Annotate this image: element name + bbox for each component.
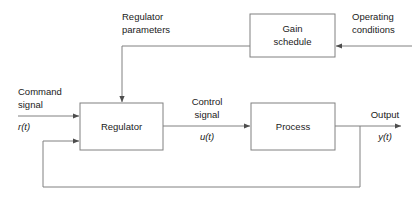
label-regulator-parameters-line2: parameters <box>122 24 170 35</box>
block-regulator-label: Regulator <box>101 121 142 132</box>
label-output-line1: Output <box>371 109 400 120</box>
block-diagram-svg: Regulator Process Gain schedule Regulato… <box>0 0 416 211</box>
label-output-variable: y(t) <box>377 131 392 142</box>
label-operating-conditions-line1: Operating <box>352 11 394 22</box>
block-diagram-canvas: Regulator Process Gain schedule Regulato… <box>0 0 416 211</box>
label-command-signal-variable: r(t) <box>18 121 30 132</box>
label-command-signal-line2: signal <box>18 99 43 110</box>
block-gain-schedule-label-line1: Gain <box>282 23 302 34</box>
block-gain-schedule-label-line2: schedule <box>273 36 311 47</box>
label-control-signal-line2: signal <box>195 109 220 120</box>
label-control-signal-line1: Control <box>192 96 223 107</box>
wire-gain-schedule-to-regulator <box>122 46 250 102</box>
label-command-signal-line1: Command <box>18 86 62 97</box>
label-regulator-parameters-line1: Regulator <box>122 11 163 22</box>
label-operating-conditions-line2: conditions <box>352 24 395 35</box>
block-process-label: Process <box>276 121 311 132</box>
label-control-signal-variable: u(t) <box>200 131 214 142</box>
